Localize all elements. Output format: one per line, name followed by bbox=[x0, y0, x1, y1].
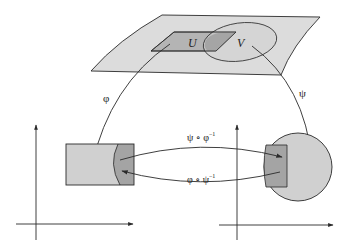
label-u: U bbox=[188, 36, 198, 50]
psi-phi-inverse-arrow bbox=[120, 147, 282, 160]
right-chart-overlap bbox=[264, 145, 287, 187]
psi-label: ψ bbox=[299, 87, 306, 99]
phi-label: φ bbox=[103, 92, 109, 104]
psi-phi-inverse-label: ψ ∘ φ−1 bbox=[187, 131, 215, 143]
phi-psi-inverse-label: φ ∘ ψ−1 bbox=[187, 173, 215, 185]
right-chart-disk bbox=[264, 133, 332, 201]
left-chart-rect bbox=[66, 144, 134, 185]
chart-transition-diagram: U V φ ψ ψ ∘ φ−1 φ ∘ ψ−1 bbox=[0, 0, 350, 252]
